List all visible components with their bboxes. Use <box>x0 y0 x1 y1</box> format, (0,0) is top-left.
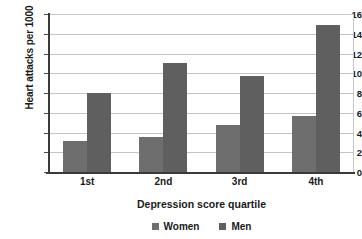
chart-legend: WomenMen <box>49 221 354 232</box>
bar-group <box>292 14 340 172</box>
legend-swatch-icon <box>152 223 159 230</box>
bar-women-3rd <box>216 125 240 172</box>
x-tick-label: 3rd <box>232 176 248 187</box>
bar-chart: Heart attacks per 1000 0246810121416 1st… <box>0 0 362 239</box>
legend-item-men: Men <box>219 221 251 232</box>
x-axis-line <box>46 172 355 174</box>
plot-area <box>49 14 354 172</box>
legend-swatch-icon <box>219 223 226 230</box>
bar-men-1st <box>87 93 111 172</box>
bar-men-2nd <box>163 63 187 172</box>
legend-item-women: Women <box>152 221 200 232</box>
y-axis-line <box>48 13 50 173</box>
bar-women-2nd <box>139 137 163 172</box>
legend-label: Men <box>231 221 251 232</box>
y-axis-title: Heart attacks per 1000 <box>24 0 35 133</box>
x-tick-label: 1st <box>80 176 94 187</box>
x-tick-label: 4th <box>308 176 323 187</box>
x-tick-label: 2nd <box>154 176 172 187</box>
bar-women-1st <box>63 141 87 172</box>
bar-group <box>63 14 111 172</box>
bar-group <box>216 14 264 172</box>
bar-men-3rd <box>240 76 264 172</box>
x-axis-title: Depression score quartile <box>49 198 354 210</box>
bar-group <box>139 14 187 172</box>
bar-women-4th <box>292 116 316 172</box>
bar-men-4th <box>316 25 340 172</box>
legend-label: Women <box>164 221 200 232</box>
